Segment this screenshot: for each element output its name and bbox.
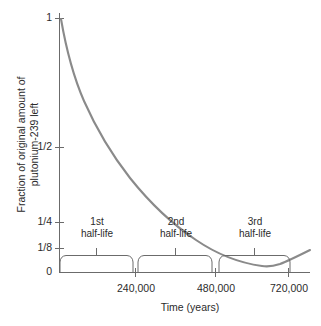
y-axis-title-line1: Fraction of original amount of [15, 45, 28, 245]
decay-chart: 1 1/2 1/4 1/8 0 240,000 480,000 720,000 … [0, 0, 321, 326]
y-axis-title: Fraction of original amount of plutonium… [15, 45, 40, 245]
brace-second-half-life [138, 256, 212, 273]
x-tick-label-720000: 720,000 [251, 283, 321, 295]
annotation-first-line2: half-life [68, 228, 126, 240]
annotation-third-line2: half-life [226, 228, 284, 240]
half-life-braces [60, 248, 290, 272]
brace-first-half-life [60, 256, 133, 273]
x-tick-label-240000: 240,000 [98, 283, 174, 295]
annotation-third-half-life: 3rd half-life [226, 216, 284, 240]
x-axis-title: Time (years) [120, 302, 260, 314]
y-tick-label-1: 1 [28, 12, 52, 24]
annotation-second-line2: half-life [147, 228, 205, 240]
annotation-third-line1: 3rd [226, 216, 284, 228]
y-tick-label-0: 0 [28, 266, 52, 278]
annotation-second-half-life: 2nd half-life [147, 216, 205, 240]
x-tick-label-480000: 480,000 [178, 283, 254, 295]
annotation-first-line1: 1st [68, 216, 126, 228]
annotation-first-half-life: 1st half-life [68, 216, 126, 240]
y-axis-title-line2: plutonium-239 left [27, 45, 40, 245]
annotation-second-line1: 2nd [147, 216, 205, 228]
